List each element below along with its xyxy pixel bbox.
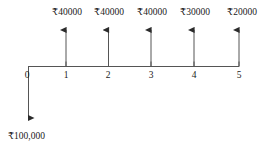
- tick-label-5: 5: [231, 70, 247, 80]
- tick-label-0: 0: [19, 70, 35, 80]
- inflow-label-4: ₹30000: [168, 6, 222, 17]
- tick-label-4: 4: [186, 70, 202, 80]
- tick-label-2: 2: [100, 70, 116, 80]
- cash-flow-timeline-diagram: ₹40000 ₹40000 ₹40000 ₹30000 ₹20000 0 1 2…: [0, 0, 275, 148]
- outflow-label-0: ₹100,000: [8, 130, 45, 141]
- tick-label-1: 1: [58, 70, 74, 80]
- tick-label-3: 3: [143, 70, 159, 80]
- inflow-label-5: ₹20000: [215, 6, 269, 17]
